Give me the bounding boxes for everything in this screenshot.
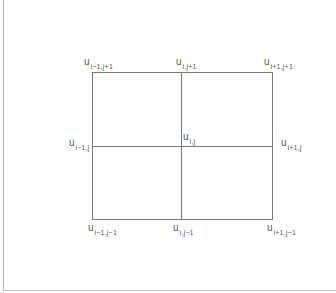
node-symbol: u — [281, 137, 287, 148]
node-label-mid-right: ui+1,j — [281, 138, 302, 148]
node-label-bottom-right: ui+1,j−1 — [267, 223, 296, 233]
node-label-mid-left: ui−1,j — [69, 138, 90, 148]
node-label-top-center: ui,j+1 — [176, 57, 197, 67]
node-subscript: i−1,j — [76, 144, 90, 151]
node-symbol: u — [267, 222, 273, 233]
node-symbol: u — [88, 222, 94, 233]
node-subscript: i,j — [190, 138, 196, 145]
node-label-top-left: ui−1,j+1 — [84, 57, 113, 67]
node-subscript: i,j−1 — [180, 229, 194, 236]
node-label-center: ui,j — [183, 132, 195, 142]
node-symbol: u — [84, 56, 90, 67]
node-symbol: u — [69, 137, 75, 148]
node-subscript: i−1,j−1 — [95, 229, 117, 236]
node-subscript: i+1,j — [288, 144, 302, 151]
node-label-bottom-center: ui,j−1 — [173, 223, 194, 233]
node-symbol: u — [173, 222, 179, 233]
node-label-bottom-left: ui−1,j−1 — [88, 223, 117, 233]
node-subscript: i−1,j+1 — [91, 63, 113, 70]
node-subscript: i+1,j−1 — [274, 229, 296, 236]
node-label-top-right: ui+1,j+1 — [264, 57, 293, 67]
node-subscript: i+1,j+1 — [271, 63, 293, 70]
node-symbol: u — [264, 56, 270, 67]
node-symbol: u — [183, 131, 189, 142]
node-symbol: u — [176, 56, 182, 67]
node-subscript: i,j+1 — [183, 63, 197, 70]
